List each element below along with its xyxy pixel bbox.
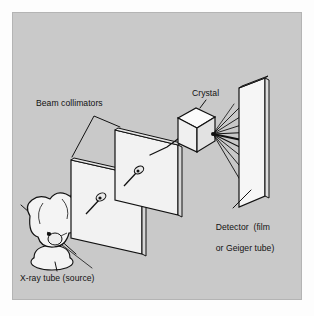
crystal [178,108,215,152]
label-detector: Detector (film or Geiger tube) [206,211,274,264]
label-xray-tube: X-ray tube (source) [20,273,95,284]
label-beam-collimators: Beam collimators [36,98,103,109]
leader-beam-collimators [72,116,120,157]
label-detector-line-1: Detector (film [216,222,270,232]
diagram-illustration [0,0,314,316]
label-detector-line-2: or Geiger tube) [216,243,275,253]
diagram-page: Beam collimators Crystal Detector (film … [0,0,314,316]
detector [239,76,269,207]
leader-crystal [200,100,206,108]
label-crystal: Crystal [192,88,219,99]
